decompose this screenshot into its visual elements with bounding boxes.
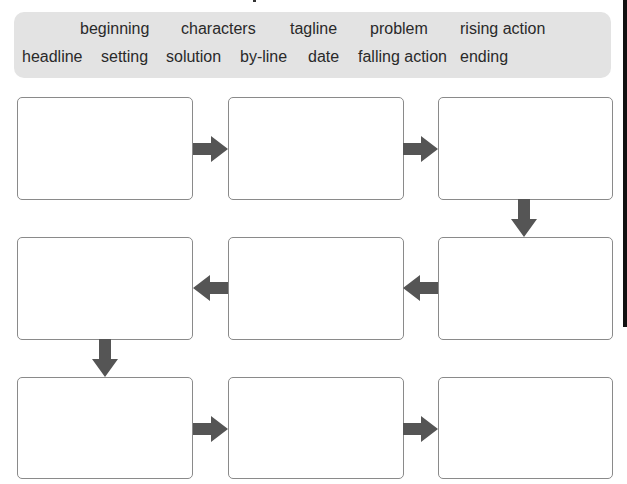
top-mark [253, 0, 256, 2]
arrow-left-icon [403, 275, 439, 301]
word-tagline[interactable]: tagline [290, 20, 337, 38]
flow-box-1[interactable] [17, 97, 193, 200]
word-beginning[interactable]: beginning [80, 20, 149, 38]
arrow-right-icon [403, 136, 439, 162]
word-headline[interactable]: headline [22, 48, 83, 66]
word-by-line[interactable]: by-line [240, 48, 287, 66]
flow-box-3[interactable] [438, 97, 613, 200]
flow-box-5[interactable] [228, 237, 404, 340]
word-solution[interactable]: solution [166, 48, 221, 66]
arrow-right-icon [403, 416, 439, 442]
word-date[interactable]: date [308, 48, 339, 66]
word-falling-action[interactable]: falling action [358, 48, 447, 66]
word-rising-action[interactable]: rising action [460, 20, 545, 38]
flow-box-6[interactable] [17, 237, 193, 340]
flow-box-4[interactable] [438, 237, 613, 340]
flow-box-7[interactable] [17, 377, 193, 479]
arrow-right-icon [193, 136, 229, 162]
arrow-down-icon [511, 199, 537, 238]
page-edge-bar [623, 0, 627, 327]
flow-box-2[interactable] [228, 97, 404, 200]
word-characters[interactable]: characters [181, 20, 256, 38]
word-problem[interactable]: problem [370, 20, 428, 38]
arrow-right-icon [193, 416, 229, 442]
arrow-left-icon [193, 275, 229, 301]
word-ending[interactable]: ending [460, 48, 508, 66]
flow-box-9[interactable] [438, 377, 613, 479]
word-bank: beginning characters tagline problem ris… [14, 12, 611, 78]
word-setting[interactable]: setting [101, 48, 148, 66]
flow-box-8[interactable] [228, 377, 404, 479]
arrow-down-icon [92, 339, 118, 378]
